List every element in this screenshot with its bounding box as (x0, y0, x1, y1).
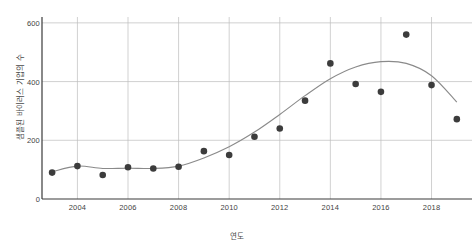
x-axis-tick-label: 2006 (119, 203, 137, 212)
x-axis-tick-label: 2004 (69, 203, 87, 212)
chart-container: 0200400600 20042006200820102012201420162… (0, 0, 475, 248)
x-axis-tick-label: 2014 (322, 203, 340, 212)
x-axis-tick-labels: 20042006200820102012201420162018 (0, 0, 475, 248)
y-axis-title: 샘플된 바이러스 기업의 수 (14, 2, 28, 192)
x-axis-tick-label: 2010 (220, 203, 238, 212)
x-axis-tick-label: 2008 (170, 203, 188, 212)
x-axis-tick-label: 2018 (423, 203, 441, 212)
x-axis-tick-label: 2016 (372, 203, 390, 212)
x-axis-tick-label: 2012 (271, 203, 289, 212)
x-axis-title: 연도 (0, 230, 475, 241)
